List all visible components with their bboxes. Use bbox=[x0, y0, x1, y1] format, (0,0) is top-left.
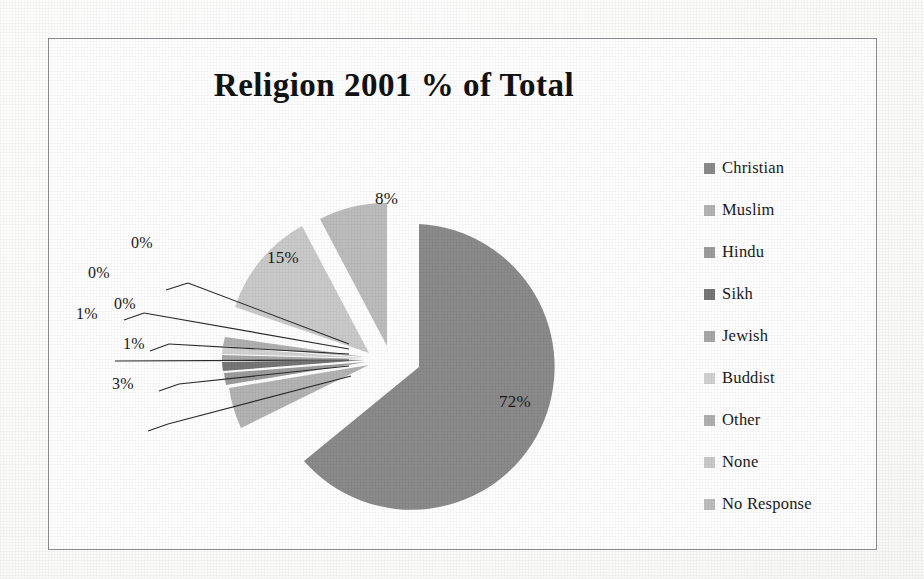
legend-swatch-icon bbox=[704, 415, 715, 426]
pie-chart-graphic bbox=[49, 39, 739, 551]
leader-line-other bbox=[166, 283, 188, 290]
legend-item-sikh[interactable]: Sikh bbox=[704, 273, 884, 315]
slice-label-hindu: 1% bbox=[123, 335, 145, 353]
legend-label: Sikh bbox=[722, 284, 753, 304]
slice-label-muslim: 3% bbox=[112, 375, 134, 393]
leader-line-buddist bbox=[124, 313, 144, 320]
legend-label: Muslim bbox=[722, 200, 775, 220]
legend-label: Jewish bbox=[722, 326, 768, 346]
legend-label: None bbox=[722, 452, 759, 472]
chart-legend: Christian Muslim Hindu Sikh Jewish Buddi… bbox=[704, 147, 884, 525]
slice-label-none: 15% bbox=[267, 248, 299, 268]
leader-line-muslim bbox=[148, 424, 168, 431]
slice-label-jewish: 0% bbox=[114, 295, 136, 313]
legend-label: No Response bbox=[722, 494, 812, 514]
legend-swatch-icon bbox=[704, 163, 715, 174]
legend-swatch-icon bbox=[704, 289, 715, 300]
legend-label: Buddist bbox=[722, 368, 775, 388]
slice-label-christian: 72% bbox=[499, 392, 531, 412]
legend-item-none[interactable]: None bbox=[704, 441, 884, 483]
legend-item-other[interactable]: Other bbox=[704, 399, 884, 441]
legend-label: Hindu bbox=[722, 242, 764, 262]
legend-item-jewish[interactable]: Jewish bbox=[704, 315, 884, 357]
legend-item-hindu[interactable]: Hindu bbox=[704, 231, 884, 273]
slice-label-buddist: 0% bbox=[88, 264, 110, 282]
legend-item-buddist[interactable]: Buddist bbox=[704, 357, 884, 399]
legend-label: Other bbox=[722, 410, 761, 430]
legend-item-christian[interactable]: Christian bbox=[704, 147, 884, 189]
legend-item-no-response[interactable]: No Response bbox=[704, 483, 884, 525]
chart-frame: Religion 2001 % of Total bbox=[48, 38, 877, 550]
legend-swatch-icon bbox=[704, 499, 715, 510]
legend-label: Christian bbox=[722, 158, 784, 178]
leader-line-hindu bbox=[159, 384, 179, 391]
legend-swatch-icon bbox=[704, 373, 715, 384]
slice-label-sikh: 1% bbox=[76, 305, 98, 323]
legend-swatch-icon bbox=[704, 205, 715, 216]
legend-swatch-icon bbox=[704, 457, 715, 468]
slice-label-no-response: 8% bbox=[375, 189, 398, 209]
legend-swatch-icon bbox=[704, 247, 715, 258]
pie-chart-plot-area: 72% 15% 8% 0% 0% 0% 1% 1% 3% bbox=[49, 39, 739, 551]
leader-line-jewish bbox=[150, 344, 169, 351]
legend-swatch-icon bbox=[704, 331, 715, 342]
legend-item-muslim[interactable]: Muslim bbox=[704, 189, 884, 231]
slice-label-other: 0% bbox=[131, 234, 153, 252]
